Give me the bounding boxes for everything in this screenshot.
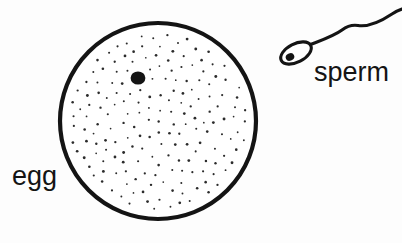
stipple-dot: [168, 132, 171, 135]
stipple-dot: [115, 172, 117, 174]
stipple-dot: [138, 112, 140, 114]
stipple-dot: [86, 116, 88, 118]
stipple-dot: [167, 154, 169, 156]
stipple-dot: [180, 102, 182, 104]
egg-label: egg: [12, 163, 57, 190]
sperm-label: sperm: [314, 59, 389, 86]
stipple-dot: [206, 130, 209, 133]
stipple-dot: [224, 79, 226, 81]
stipple-dot: [214, 75, 217, 78]
stipple-dot: [185, 80, 187, 82]
stipple-dot: [189, 200, 191, 202]
stipple-dot: [148, 136, 151, 139]
stipple-dot: [132, 61, 134, 63]
stipple-dot: [191, 171, 193, 173]
stipple-dot: [85, 140, 88, 143]
stipple-dot: [154, 174, 156, 176]
stipple-dot: [152, 37, 154, 39]
egg-sperm-diagram: [0, 0, 402, 243]
stipple-dot: [223, 118, 226, 121]
stipple-dot: [131, 145, 133, 147]
stipple-dot: [158, 131, 161, 134]
stipple-dot: [243, 139, 245, 141]
stipple-dot: [159, 94, 161, 96]
stipple-dot: [86, 94, 89, 97]
stipple-dot: [214, 162, 216, 164]
stipple-dot: [155, 54, 158, 57]
stipple-dot: [178, 133, 180, 135]
stipple-dot: [145, 57, 147, 59]
sperm-head: [277, 37, 315, 68]
stipple-dot: [146, 200, 149, 203]
stipple-dot: [148, 107, 150, 109]
stipple-dot: [177, 42, 179, 44]
stipple-dot: [235, 148, 238, 151]
stipple-dot: [141, 45, 143, 47]
stipple-dot: [127, 113, 129, 115]
stipple-dot: [191, 89, 193, 91]
stipple-dot: [173, 123, 175, 125]
stipple-dot: [202, 170, 204, 172]
stipple-dot: [114, 156, 117, 159]
stipple-dot: [139, 89, 141, 91]
stipple-dot: [111, 189, 113, 191]
stipple-dot: [157, 120, 159, 122]
sperm-tail: [307, 9, 402, 46]
stipple-dot: [149, 69, 151, 71]
stipple-dot: [166, 34, 168, 36]
stipple-dot: [102, 160, 104, 162]
stipple-dot: [158, 199, 160, 201]
stipple-dot: [101, 180, 104, 183]
stipple-dot: [230, 138, 232, 140]
egg-cell: [60, 23, 256, 219]
stipple-dot: [123, 100, 125, 102]
stipple-dot: [203, 122, 205, 124]
stipple-dot: [95, 143, 97, 145]
stipple-dot: [209, 95, 211, 97]
stipple-dot: [217, 105, 219, 107]
stipple-dot: [134, 178, 136, 180]
stipple-dot: [233, 116, 235, 118]
stipple-dot: [83, 156, 86, 159]
stipple-dot: [133, 126, 136, 129]
stipple-dot: [127, 137, 129, 139]
stipple-dot: [221, 94, 223, 96]
stipple-dot: [236, 96, 239, 99]
stipple-dot: [213, 173, 215, 175]
stipple-dot: [116, 45, 118, 47]
stipple-dot: [223, 155, 225, 157]
stipple-dot: [160, 143, 162, 145]
stipple-dot: [97, 92, 100, 95]
stipple-dot: [237, 131, 239, 133]
stipple-dot: [170, 206, 172, 208]
stipple-dot: [178, 201, 181, 204]
stipple-dot: [132, 50, 135, 53]
stipple-dot: [79, 108, 81, 110]
stipple-dot: [199, 141, 202, 144]
stipple-dot: [72, 141, 75, 144]
stipple-dot: [142, 191, 145, 194]
stipple-dot: [77, 89, 79, 91]
stipple-dot: [183, 112, 186, 115]
stipple-dot: [116, 71, 118, 73]
stipple-dot: [238, 87, 240, 89]
stipple-dot: [200, 59, 203, 62]
stipple-dot: [181, 170, 183, 172]
stipple-dot: [150, 184, 152, 186]
stipple-dot: [202, 70, 204, 72]
stipple-dot: [186, 38, 189, 41]
stipple-dot: [159, 46, 161, 48]
stipple-dot: [170, 70, 172, 72]
stipple-dot: [96, 59, 99, 62]
stipple-dot: [72, 115, 74, 117]
stipple-dot: [171, 169, 173, 171]
egg-nucleus: [131, 71, 146, 84]
stipple-dot: [99, 106, 101, 108]
stipple-dot: [153, 208, 155, 210]
stipple-dot: [144, 172, 146, 174]
stipple-dot: [165, 78, 167, 80]
stipple-dot: [159, 110, 161, 112]
stipple-dot: [225, 169, 227, 171]
stipple-dot: [162, 181, 164, 183]
stipple-dot: [212, 121, 215, 124]
